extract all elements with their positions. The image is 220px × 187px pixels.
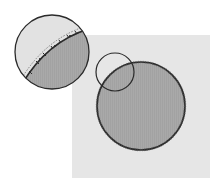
magnification-diagram <box>0 0 220 187</box>
